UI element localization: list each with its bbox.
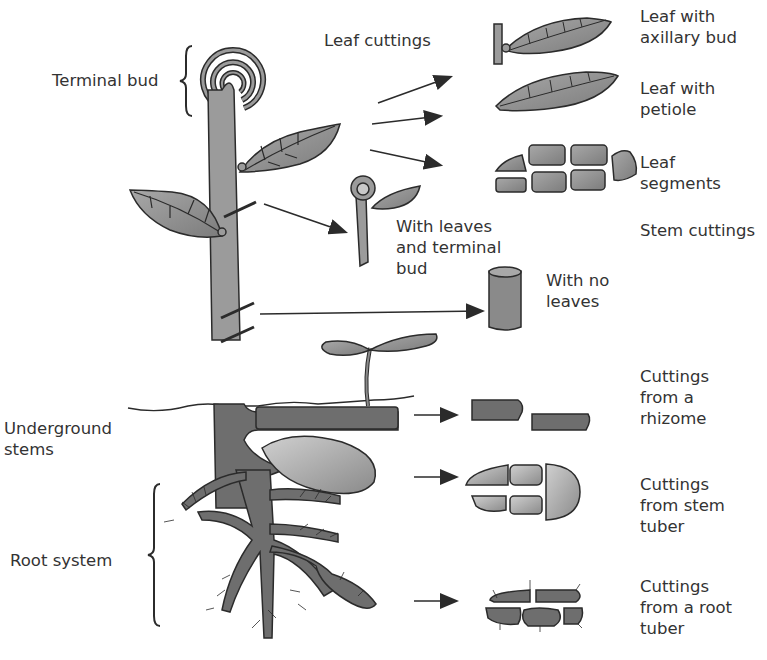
rhizome-shoot	[322, 334, 437, 406]
label-cuttings-root-tuber: Cuttings from a root tuber	[640, 576, 732, 639]
stem-tuber-pieces-icon	[466, 464, 580, 520]
leaf-with-petiole-icon	[496, 72, 618, 111]
label-stem-cuttings-heading: Stem cuttings	[640, 220, 755, 241]
label-underground-stems: Underground stems	[4, 418, 112, 460]
label-root-system: Root system	[10, 550, 112, 571]
rhizome	[256, 407, 398, 429]
label-leaf-with-petiole: Leaf with petiole	[640, 78, 715, 120]
label-stem-with-leaves: With leaves and terminal bud	[396, 216, 501, 279]
leaf-segments-icon	[496, 145, 636, 192]
plant-cuttings-diagram: Terminal bud Leaf cuttings Leaf with axi…	[0, 0, 767, 660]
arrow-leaf-segments	[370, 150, 440, 165]
label-stem-no-leaves: With no leaves	[546, 270, 609, 312]
arrow-stem-no-leaves	[260, 311, 482, 314]
leaf-with-bud-icon	[494, 18, 611, 64]
label-cuttings-stem-tuber: Cuttings from stem tuber	[640, 474, 725, 537]
main-plant	[128, 46, 437, 638]
root-system	[182, 470, 376, 638]
label-leaf-segments: Leaf segments	[640, 152, 721, 194]
label-leaf-with-axillary-bud: Leaf with axillary bud	[640, 6, 737, 48]
rhizome-pieces-icon	[472, 400, 590, 430]
root-tuber-pieces-icon	[486, 580, 583, 632]
terminal-bud-brace	[180, 46, 192, 116]
arrow-leaf-bud	[378, 77, 450, 103]
label-cuttings-rhizome: Cuttings from a rhizome	[640, 366, 709, 429]
label-terminal-bud: Terminal bud	[52, 70, 158, 91]
arrow-leaf-petiole	[372, 116, 440, 124]
root-system-brace	[148, 484, 160, 626]
label-leaf-cuttings-heading: Leaf cuttings	[324, 30, 431, 51]
arrow-stem-leaves	[264, 204, 345, 232]
stem-tuber	[262, 436, 375, 493]
